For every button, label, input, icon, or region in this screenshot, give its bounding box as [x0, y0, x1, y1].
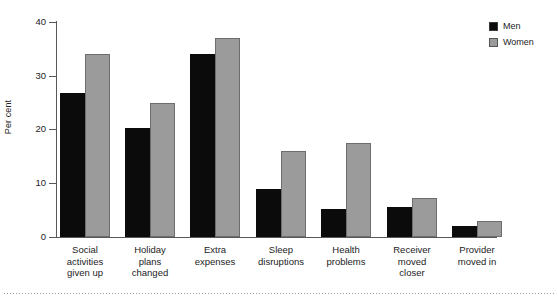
y-tick-label-30: 30 [22, 71, 46, 81]
bar-group [387, 22, 437, 237]
bar-women [215, 38, 240, 237]
y-tick-40 [49, 22, 56, 23]
bar-women [346, 143, 371, 237]
category-label: Providermoved in [431, 244, 523, 267]
y-tick-label-0: 0 [22, 232, 46, 242]
men-swatch-icon [489, 22, 498, 31]
legend-item-men: Men [489, 19, 534, 33]
footer-divider [4, 293, 554, 294]
bar-group [452, 22, 502, 237]
bar-men [190, 54, 215, 237]
legend-item-women: Women [489, 35, 534, 49]
y-tick-label-40: 40 [22, 17, 46, 27]
y-axis-title: Per cent [3, 100, 13, 134]
bar-group [321, 22, 371, 237]
bar-group [60, 22, 110, 237]
y-tick-label-10: 10 [22, 178, 46, 188]
bar-men [387, 207, 412, 237]
bar-men [452, 226, 477, 237]
bar-group [190, 22, 240, 237]
bar-women [477, 221, 502, 237]
bar-chart: Per cent 0 10 20 30 40 Socialactivitiesg… [0, 0, 558, 307]
y-tick-label-20: 20 [22, 124, 46, 134]
legend: Men Women [489, 19, 534, 51]
bar-women [281, 151, 306, 237]
legend-label-women: Women [503, 38, 534, 47]
bar-women [150, 103, 175, 237]
bar-men [256, 189, 281, 237]
bar-group [125, 22, 175, 237]
y-tick-20 [49, 129, 56, 130]
women-swatch-icon [489, 38, 498, 47]
bar-men [321, 209, 346, 237]
y-tick-10 [49, 183, 56, 184]
category-label-line: moved in [431, 256, 523, 268]
bar-women [85, 54, 110, 237]
y-tick-30 [49, 76, 56, 77]
bar-men [125, 128, 150, 237]
bar-group [256, 22, 306, 237]
y-tick-0 [49, 237, 56, 238]
category-label-line: Provider [431, 244, 523, 256]
category-label-line: changed [104, 267, 196, 279]
bar-women [412, 198, 437, 237]
x-axis-line [56, 237, 497, 238]
legend-label-men: Men [503, 22, 521, 31]
category-label-line: closer [366, 267, 458, 279]
bar-men [60, 93, 85, 237]
plot-area [57, 22, 497, 237]
